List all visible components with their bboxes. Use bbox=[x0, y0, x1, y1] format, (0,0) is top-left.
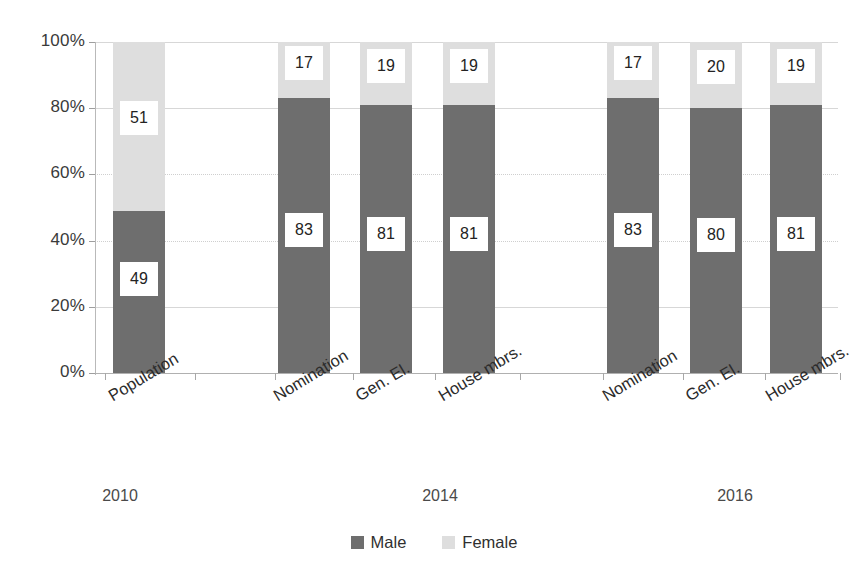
bar-4[interactable] bbox=[443, 42, 495, 373]
data-label-female: 20 bbox=[697, 50, 735, 84]
data-label-male: 49 bbox=[120, 262, 158, 296]
data-label-female: 19 bbox=[777, 49, 815, 83]
x-axis-tick bbox=[435, 373, 436, 380]
bar-5[interactable] bbox=[607, 42, 659, 373]
legend-item-male[interactable]: Male bbox=[351, 533, 407, 552]
x-axis-group-label: 2010 bbox=[102, 487, 138, 505]
bar-6[interactable] bbox=[690, 42, 742, 373]
data-label-female: 17 bbox=[285, 46, 323, 80]
bar-3[interactable] bbox=[360, 42, 412, 373]
x-axis-group-label: 2016 bbox=[717, 487, 753, 505]
data-label-male: 81 bbox=[367, 217, 405, 251]
y-axis-label: 20% bbox=[50, 296, 85, 316]
data-label-female: 19 bbox=[450, 49, 488, 83]
y-axis-line bbox=[95, 42, 96, 375]
legend-swatch-icon bbox=[442, 536, 455, 549]
x-axis-tick bbox=[353, 373, 354, 380]
plot-area: 5149178319811981178320801981 bbox=[95, 42, 838, 373]
data-label-female: 51 bbox=[120, 101, 158, 135]
y-axis-label: 0% bbox=[60, 362, 85, 382]
legend-label: Male bbox=[371, 533, 407, 552]
x-axis-tick bbox=[603, 373, 604, 380]
y-axis-label: 60% bbox=[50, 163, 85, 183]
y-axis-label: 100% bbox=[41, 31, 85, 51]
x-axis-tick bbox=[683, 373, 684, 380]
bar-2[interactable] bbox=[278, 42, 330, 373]
legend-item-female[interactable]: Female bbox=[442, 533, 517, 552]
x-axis-tick bbox=[765, 373, 766, 380]
data-label-male: 83 bbox=[614, 213, 652, 247]
x-axis-tick bbox=[275, 373, 276, 380]
data-label-male: 83 bbox=[285, 213, 323, 247]
chart-legend: MaleFemale bbox=[0, 533, 868, 552]
legend-swatch-icon bbox=[351, 536, 364, 549]
data-label-male: 80 bbox=[697, 218, 735, 252]
data-label-male: 81 bbox=[450, 217, 488, 251]
x-axis-tick bbox=[840, 373, 841, 380]
x-axis-tick bbox=[520, 373, 521, 380]
data-label-female: 17 bbox=[614, 46, 652, 80]
y-axis-label: 80% bbox=[50, 97, 85, 117]
stacked-bar-chart: 5149178319811981178320801981 0%20%40%60%… bbox=[0, 0, 868, 583]
bar-7[interactable] bbox=[770, 42, 822, 373]
x-axis-group-label: 2014 bbox=[422, 487, 458, 505]
bar-1[interactable] bbox=[113, 42, 165, 373]
data-label-female: 19 bbox=[367, 49, 405, 83]
legend-label: Female bbox=[462, 533, 517, 552]
data-label-male: 81 bbox=[777, 217, 815, 251]
x-axis-tick bbox=[195, 373, 196, 380]
x-axis-tick bbox=[105, 373, 106, 380]
y-axis-label: 40% bbox=[50, 230, 85, 250]
